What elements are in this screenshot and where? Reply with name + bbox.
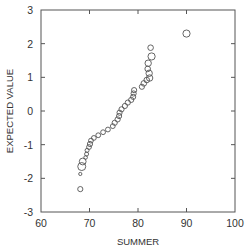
data-point (125, 100, 130, 105)
x-axis-label: SUMMER (117, 236, 159, 247)
y-tick-label: 2 (27, 38, 33, 50)
data-point (96, 133, 101, 138)
y-tick-label: -3 (24, 206, 33, 218)
y-tick-label: 3 (27, 4, 33, 16)
data-point (116, 113, 121, 118)
data-point (79, 172, 82, 175)
x-tick-label: 90 (181, 217, 193, 229)
x-tick-label: 80 (132, 217, 144, 229)
y-tick-label: 0 (27, 105, 33, 117)
x-tick-label: 100 (226, 217, 244, 229)
axis-ticks (41, 10, 235, 212)
data-point (145, 60, 151, 66)
y-axis-label: EXPECTED VALUE (4, 69, 15, 153)
plot-frame (41, 10, 235, 212)
x-tick-label: 70 (84, 217, 96, 229)
x-tick-label: 60 (35, 217, 47, 229)
data-point (148, 45, 154, 51)
data-point (78, 187, 83, 192)
data-point (101, 130, 106, 135)
data-point (78, 163, 86, 171)
data-point (87, 141, 92, 146)
data-point (115, 117, 120, 122)
x-tick-labels: 60708090100 (35, 217, 244, 229)
data-point (148, 53, 155, 60)
data-point (91, 136, 96, 141)
data-point (89, 138, 94, 143)
y-tick-labels: -3-2-10123 (24, 4, 34, 218)
y-tick-label: -2 (24, 172, 33, 184)
data-point (183, 30, 190, 37)
data-points (78, 30, 190, 192)
scatter-chart: 60708090100 -3-2-10123 SUMMER EXPECTED V… (0, 0, 249, 252)
y-tick-label: 1 (27, 71, 33, 83)
data-point (106, 127, 111, 132)
y-tick-label: -1 (24, 139, 33, 151)
